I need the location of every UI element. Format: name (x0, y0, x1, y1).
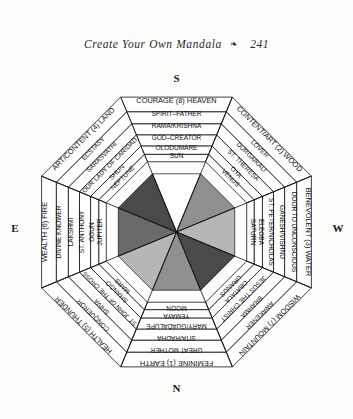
ring-label: GREAT MOTHER (150, 347, 202, 354)
page-number: 241 (250, 38, 269, 50)
ring-label: BENEVOLENT (3) WATER (304, 188, 313, 277)
ring-label: DIVINE KNOWER (55, 205, 62, 258)
ring-label: RAMA/KRISHNA (152, 122, 202, 129)
compass-label-east: E (8, 222, 22, 234)
compass-label-north: N (0, 382, 353, 394)
ring-label: SATURN (250, 219, 257, 246)
ring-label: SUN (170, 152, 184, 159)
ring-label: JUPITER (96, 218, 103, 245)
running-head: Create Your Own Mandala❧241 (0, 38, 353, 50)
ring-label: OLODUMARE (156, 144, 199, 151)
ring-label: COURAGE (8) HEAVEN (136, 96, 216, 105)
ring-label: GOD–CREATOR (152, 134, 202, 141)
ring-label: DOOR TO UNCONSCIOUS (291, 192, 298, 273)
ring-label: FEMININE (1) EARTH (140, 359, 213, 368)
ring-label: ST. PETER/NICHOLAS (268, 198, 275, 267)
mandala-diagram: COURAGE (8) HEAVENSPIRIT–FATHERRAMA/KRIS… (24, 86, 329, 378)
ring-label: LAKSHMI (67, 218, 74, 247)
ring-label: YEMAYA (163, 313, 190, 320)
ring-label: ELEGBA (258, 219, 265, 246)
running-head-title: Create Your Own Mandala (84, 38, 222, 50)
ring-label: MARY/GUADALUPE (146, 323, 207, 330)
compass-label-south: S (0, 72, 353, 84)
ring-label: OGUN (88, 222, 95, 242)
ring-label: WEALTH (6) FIRE (40, 202, 49, 262)
ring-label: SITA/RADHA (157, 335, 196, 342)
ring-label: SPIRIT–FATHER (152, 110, 202, 117)
ring-label: ST. ANTHONY (78, 210, 85, 253)
book-page: Create Your Own Mandala❧241 S N E W COUR… (0, 0, 353, 419)
ring-label: GANESH/VISHNU (279, 205, 286, 259)
ring-label: MOON (166, 305, 187, 312)
leaf-ornament-icon: ❧ (230, 39, 238, 49)
mandala-svg: COURAGE (8) HEAVENSPIRIT–FATHERRAMA/KRIS… (24, 86, 329, 378)
compass-label-west: W (331, 222, 345, 234)
